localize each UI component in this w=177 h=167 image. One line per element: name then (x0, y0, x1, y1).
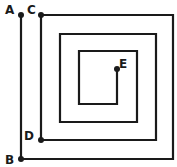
label-c: C (27, 3, 36, 17)
point-d-dot (38, 137, 44, 143)
label-d: D (24, 129, 34, 143)
point-a-dot (18, 12, 24, 18)
point-b-dot (18, 156, 24, 162)
label-e: E (119, 57, 127, 71)
spiral-diagram: A C D B E (0, 0, 177, 167)
label-a: A (5, 3, 15, 17)
point-c-dot (38, 12, 44, 18)
spiral-path (21, 15, 173, 159)
label-b: B (5, 153, 14, 167)
